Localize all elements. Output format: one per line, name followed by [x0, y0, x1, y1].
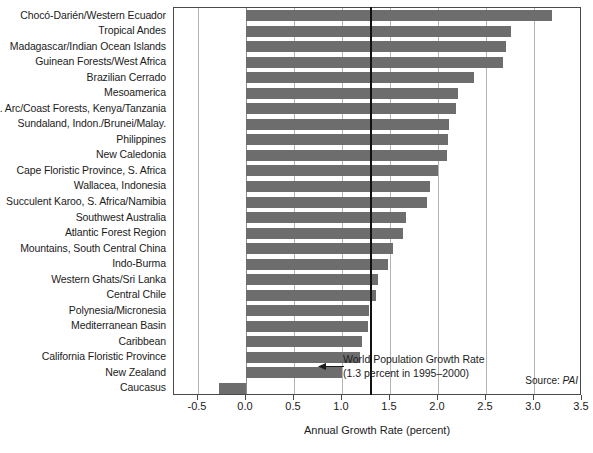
bar [219, 383, 246, 394]
category-label: New Caledonia [96, 146, 166, 162]
plot-area [173, 7, 581, 395]
category-label-column: Chocó-Darién/Western EcuadorTropical And… [0, 7, 170, 395]
bar [246, 10, 552, 21]
bar [246, 336, 362, 347]
category-label: Central Chile [107, 286, 166, 302]
bar [246, 41, 506, 52]
category-label: Mesoamerica [104, 84, 166, 100]
category-label: Wallacea, Indonesia [74, 177, 166, 193]
source-name-label: PAI [563, 375, 578, 386]
category-label: Succulent Karoo, S. Africa/Namibia [6, 193, 166, 209]
x-axis-title: Annual Growth Rate (percent) [173, 424, 581, 436]
category-label: New Zealand [105, 364, 166, 380]
threshold-annotation-line1: World Population Growth Rate [343, 352, 485, 366]
threshold-annotation: World Population Growth Rate (1.3 percen… [343, 352, 485, 380]
category-label: Chocó-Darién/Western Ecuador [20, 7, 166, 23]
threshold-annotation-line2: (1.3 percent in 1995–2000) [343, 366, 485, 380]
category-label: Cape Floristic Province, S. Africa [17, 162, 167, 178]
bar [246, 274, 378, 285]
world-population-growth-threshold-line [370, 7, 372, 395]
bar [246, 72, 474, 83]
category-label: California Floristic Province [42, 348, 166, 364]
source-credit: Source: PAI [525, 375, 578, 386]
category-label: E. Arc/Coast Forests, Kenya/Tanzania [0, 100, 166, 116]
bar [246, 212, 406, 223]
bar [246, 88, 458, 99]
bar [246, 290, 376, 301]
category-label: Sundaland, Indon./Brunei/Malay. [18, 115, 166, 131]
category-label: Indo-Burma [112, 255, 166, 271]
bar [246, 57, 503, 68]
category-label: Mediterranean Basin [71, 317, 166, 333]
category-label: Guinean Forests/West Africa [35, 53, 166, 69]
bar [246, 103, 456, 114]
bar [246, 119, 449, 130]
x-tick-label: 0.5 [273, 400, 313, 412]
x-tick-label: 1.0 [321, 400, 361, 412]
annotation-arrow-icon [318, 362, 344, 371]
x-tick-label: 1.5 [369, 400, 409, 412]
bar-series [174, 8, 580, 394]
bar [246, 197, 427, 208]
bar [246, 26, 511, 37]
category-label: Polynesia/Micronesia [69, 302, 166, 318]
category-label: Caribbean [118, 333, 166, 349]
bar [246, 150, 447, 161]
source-prefix-label: Source: [525, 375, 562, 386]
bar [246, 165, 438, 176]
bar [246, 228, 403, 239]
category-label: Southwest Australia [76, 209, 166, 225]
category-label: Madagascar/Indian Ocean Islands [10, 38, 166, 54]
category-label: Western Ghats/Sri Lanka [51, 271, 166, 287]
x-tick-label: 2.0 [417, 400, 457, 412]
x-tick-label: 3.5 [561, 400, 593, 412]
category-label: Tropical Andes [98, 22, 166, 38]
x-tick-label: -0.5 [177, 400, 217, 412]
bar [246, 259, 388, 270]
x-tick-label: 0.0 [225, 400, 265, 412]
category-label: Brazilian Cerrado [87, 69, 166, 85]
bar [246, 181, 430, 192]
bar [246, 305, 369, 316]
category-label: Atlantic Forest Region [65, 224, 166, 240]
category-label: Philippines [116, 131, 166, 147]
category-label: Mountains, South Central China [20, 240, 166, 256]
x-tick-label: 3.0 [513, 400, 553, 412]
bar [246, 321, 368, 332]
x-axis: -0.50.00.51.01.52.02.53.03.5 [173, 395, 581, 425]
category-label: Caucasus [120, 379, 166, 395]
x-tick-label: 2.5 [465, 400, 505, 412]
bar [246, 134, 448, 145]
